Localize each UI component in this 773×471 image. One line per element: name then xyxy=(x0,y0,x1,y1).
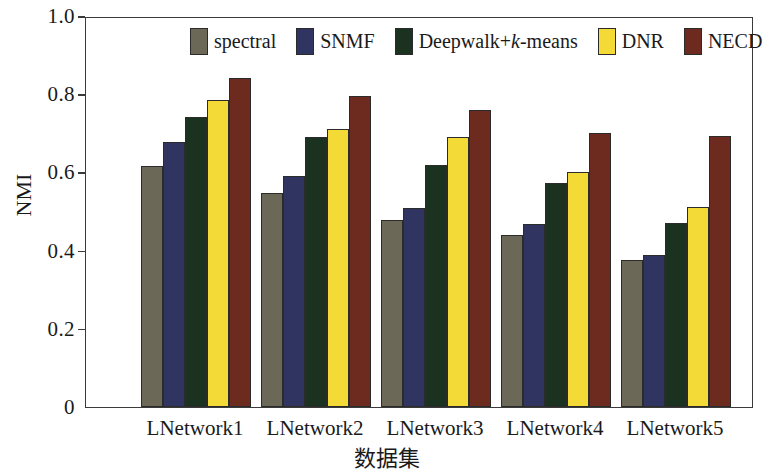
bar xyxy=(469,110,491,407)
bar xyxy=(545,183,567,407)
bar xyxy=(381,220,403,407)
legend-swatch xyxy=(395,28,413,55)
y-axis-tick-label: 0.2 xyxy=(48,316,75,342)
x-axis-tick-label: LNetwork3 xyxy=(365,414,505,442)
bar xyxy=(425,165,447,407)
bar-chart-figure: 00.20.40.60.81.0 NMI LNetwork1LNetwork2L… xyxy=(0,0,773,471)
legend-entry: DNR xyxy=(598,28,664,55)
bar xyxy=(523,224,545,407)
chart-legend: spectralSNMFDeepwalk+k-meansDNRNECD xyxy=(190,26,773,56)
bar xyxy=(163,142,185,407)
legend-entry: Deepwalk+k-means xyxy=(395,28,578,55)
bar-group xyxy=(261,18,371,407)
y-axis-tick-mark xyxy=(78,172,85,174)
x-axis-title: 数据集 xyxy=(0,440,773,471)
legend-entry: NECD xyxy=(684,28,762,55)
y-axis-tick-label: 0.8 xyxy=(48,81,75,107)
y-axis-tick-label: 0.4 xyxy=(48,238,75,264)
bar xyxy=(501,235,523,407)
legend-entry: spectral xyxy=(190,28,276,55)
legend-swatch xyxy=(296,28,314,55)
bar xyxy=(327,129,349,407)
legend-swatch xyxy=(190,28,208,55)
bar xyxy=(261,193,283,407)
legend-label: NECD xyxy=(708,30,762,52)
x-axis-tick-label: LNetwork5 xyxy=(605,414,745,442)
bar xyxy=(621,260,643,407)
y-axis-tick-label: 0 xyxy=(64,394,75,420)
legend-swatch xyxy=(684,28,702,55)
bar xyxy=(709,136,731,407)
x-axis-tick-label: LNetwork1 xyxy=(125,414,265,442)
x-axis-tick-label: LNetwork2 xyxy=(245,414,385,442)
legend-label: spectral xyxy=(214,30,276,52)
y-axis-tick-mark xyxy=(78,94,85,96)
bar xyxy=(447,137,469,407)
bar xyxy=(687,207,709,407)
legend-label: DNR xyxy=(622,30,664,52)
bar xyxy=(403,208,425,407)
y-axis: 00.20.40.60.81.0 xyxy=(0,0,85,471)
bar-group xyxy=(141,18,251,407)
legend-label: SNMF xyxy=(320,30,374,52)
bar xyxy=(207,100,229,407)
bar xyxy=(305,137,327,407)
bar xyxy=(185,117,207,407)
y-axis-tick-mark xyxy=(78,251,85,253)
y-axis-title: NMI xyxy=(11,165,37,225)
legend-swatch xyxy=(598,28,616,55)
bar-group xyxy=(501,18,611,407)
bar-group xyxy=(381,18,491,407)
bar-group xyxy=(621,18,731,407)
bar xyxy=(141,166,163,407)
bar xyxy=(665,223,687,407)
bar xyxy=(589,133,611,407)
y-axis-tick-mark xyxy=(78,16,85,18)
bar xyxy=(229,78,251,407)
bar xyxy=(349,96,371,407)
bar xyxy=(283,176,305,407)
x-axis-tick-label: LNetwork4 xyxy=(485,414,625,442)
y-axis-tick-label: 1.0 xyxy=(48,3,75,29)
bar xyxy=(567,172,589,407)
y-axis-tick-label: 0.6 xyxy=(48,159,75,185)
legend-entry: SNMF xyxy=(296,28,374,55)
bar xyxy=(643,255,665,407)
y-axis-tick-mark xyxy=(78,329,85,331)
plot-area xyxy=(85,17,753,408)
legend-label: Deepwalk+k-means xyxy=(419,30,578,52)
